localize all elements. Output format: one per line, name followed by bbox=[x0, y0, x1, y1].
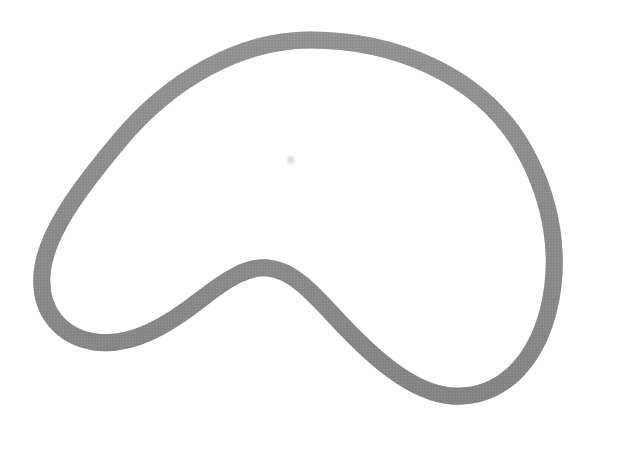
figure-svg bbox=[0, 0, 623, 453]
curve-halftone-texture bbox=[0, 0, 623, 453]
drawing-canvas bbox=[0, 0, 623, 453]
